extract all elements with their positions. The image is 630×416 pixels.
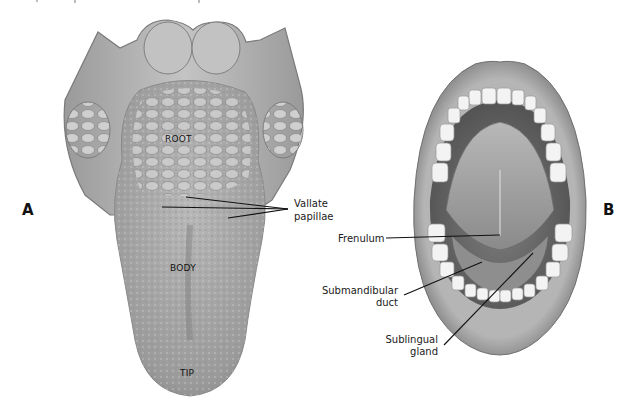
callout-submandibular-line2: duct [376, 297, 398, 309]
anatomy-figure: A ROOT BODY TIP Vallate papillae [0, 0, 630, 416]
leader-lines-b [0, 0, 630, 416]
callout-submandibular-line1: Submandibular [322, 285, 398, 297]
callout-sublingual-line1: Sublingual [385, 334, 438, 346]
callout-frenulum: Frenulum [338, 233, 385, 245]
callout-sublingual-line2: gland [410, 346, 438, 358]
